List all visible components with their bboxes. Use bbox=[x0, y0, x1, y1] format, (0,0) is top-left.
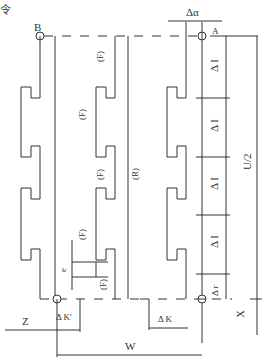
svg-text:(F): (F) bbox=[98, 279, 108, 290]
right-tool-path bbox=[167, 22, 186, 299]
corner-glyph: 令 bbox=[0, 3, 11, 16]
left-tool-path bbox=[21, 36, 40, 299]
svg-text:(F): (F) bbox=[95, 169, 105, 180]
delta-i-label-3: Δ I bbox=[208, 177, 220, 190]
delta-k-prime-label: Δ K' bbox=[56, 312, 72, 322]
svg-text:(F): (F) bbox=[77, 229, 87, 240]
point-b-label: B bbox=[34, 21, 41, 33]
delta-k-label: Δ K bbox=[158, 314, 173, 324]
point-a-label: A bbox=[212, 26, 219, 36]
x-label: X bbox=[234, 310, 246, 318]
delta-i-label-4: Δ I bbox=[208, 235, 220, 248]
delta-alpha-label: Δα bbox=[186, 6, 199, 18]
delta-i-label-1: Δ I bbox=[208, 59, 220, 72]
rapid-label: (R) bbox=[130, 168, 140, 180]
z-label: Z bbox=[22, 315, 29, 327]
middle-tool-path bbox=[96, 36, 115, 299]
delta-i-label-2: Δ I bbox=[208, 119, 220, 132]
delta-r-label: Δ r bbox=[210, 285, 220, 296]
u-half-label: U/2 bbox=[241, 154, 253, 171]
svg-text:(F): (F) bbox=[77, 109, 87, 120]
svg-text:(F): (F) bbox=[95, 51, 105, 62]
thread-cutting-diagram: 令 B A e Δα Δ I Δ I Δ I Δ I Δ r U/2 X bbox=[0, 0, 265, 363]
w-label: W bbox=[125, 340, 136, 352]
e-label: e bbox=[58, 268, 68, 272]
